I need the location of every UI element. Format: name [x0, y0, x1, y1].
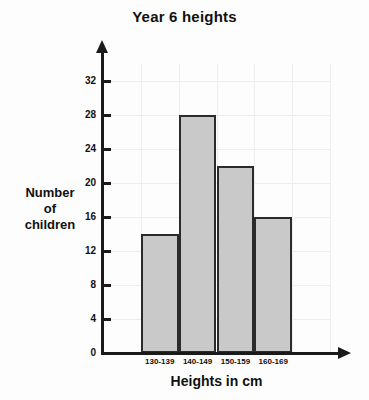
y-axis-tick	[104, 182, 111, 185]
x-axis-arrow-icon	[338, 347, 351, 359]
bar	[254, 217, 292, 353]
y-axis-tick-label: 28	[70, 109, 96, 120]
x-axis-tick-label: 130-139	[141, 357, 179, 366]
bar	[141, 234, 179, 353]
y-axis-tick	[104, 250, 111, 253]
y-axis-tick	[104, 80, 111, 83]
y-axis-tick-label: 12	[70, 245, 96, 256]
x-axis-tick-labels: 130-139140-149150-159160-169	[103, 357, 330, 371]
chart-container: Year 6 heights 048121620242832 Number of…	[0, 0, 369, 400]
chart-title: Year 6 heights	[0, 8, 369, 25]
y-axis-arrow-icon	[96, 40, 108, 53]
y-axis-tick	[104, 148, 111, 151]
bar	[217, 166, 255, 353]
plot-area	[103, 64, 330, 353]
y-axis-tick-label: 8	[70, 279, 96, 290]
x-axis-tick-label: 140-149	[179, 357, 217, 366]
y-axis-title-line-3: children	[2, 217, 98, 233]
y-axis-tick-label: 32	[70, 75, 96, 86]
x-axis-tick-label: 150-159	[217, 357, 255, 366]
x-axis-line	[101, 352, 341, 355]
gridline-vertical	[330, 64, 331, 353]
y-axis-title-line-1: Number	[2, 185, 98, 201]
y-axis-line	[101, 50, 104, 354]
y-axis-tick	[104, 114, 111, 117]
gridline-vertical	[292, 64, 293, 353]
x-axis-title: Heights in cm	[103, 373, 330, 389]
x-axis-tick-label: 160-169	[254, 357, 292, 366]
y-axis-tick	[104, 318, 111, 321]
y-axis-tick-label: 0	[70, 347, 96, 358]
y-axis-title: Number of children	[2, 185, 98, 233]
y-axis-tick-label: 24	[70, 143, 96, 154]
y-axis-tick-label: 4	[70, 313, 96, 324]
y-axis-title-line-2: of	[2, 201, 98, 217]
y-axis-tick	[104, 216, 111, 219]
y-axis-tick	[104, 284, 111, 287]
bar	[179, 115, 217, 353]
y-axis-tick	[104, 352, 111, 355]
